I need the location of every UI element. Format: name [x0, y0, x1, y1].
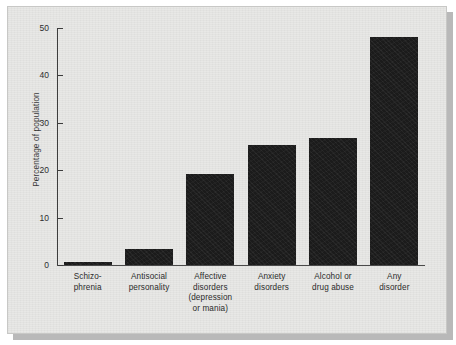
y-tick-label: 30: [27, 118, 49, 128]
bar: [248, 145, 296, 265]
y-axis-line: [57, 28, 58, 265]
x-tick-label-line: disorder: [354, 283, 434, 294]
x-axis-line: [57, 265, 425, 266]
x-tick-label-line: Any: [354, 272, 434, 283]
y-axis-label: Percentage of population: [32, 60, 41, 220]
y-tick-mark: [58, 170, 63, 171]
bar: [186, 174, 234, 265]
bar: [309, 138, 357, 265]
y-tick-label: 0: [27, 260, 49, 270]
x-tick-label: Anydisorder: [354, 272, 434, 293]
bar: [64, 262, 112, 265]
bar: [370, 37, 418, 265]
y-tick-mark: [58, 123, 63, 124]
y-tick-label: 10: [27, 213, 49, 223]
y-tick-label: 20: [27, 165, 49, 175]
y-tick-mark: [58, 265, 63, 266]
bar: [125, 249, 173, 265]
y-tick-mark: [58, 218, 63, 219]
y-tick-label: 40: [27, 70, 49, 80]
y-tick-mark: [58, 75, 63, 76]
y-tick-label: 50: [27, 23, 49, 33]
y-tick-mark: [58, 28, 63, 29]
plot-area: Percentage of population 50403020100 Sch…: [0, 0, 456, 345]
x-tick-label-line: or mania): [170, 304, 250, 315]
x-tick-label-line: (depression: [170, 293, 250, 304]
figure-container: Percentage of population 50403020100 Sch…: [0, 0, 456, 345]
